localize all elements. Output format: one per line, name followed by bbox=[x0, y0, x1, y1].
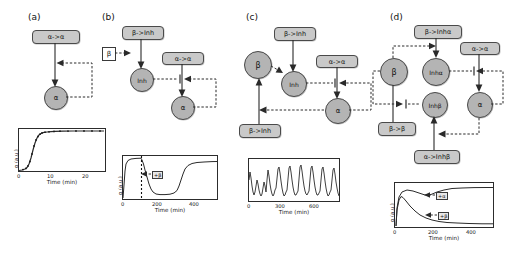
chart-c-xlabel: Time (min) bbox=[262, 209, 326, 215]
chart-c-frame bbox=[248, 158, 340, 202]
chart-b-frame bbox=[122, 155, 218, 200]
chart-a-frame bbox=[18, 128, 106, 172]
node-alpha-circle-c: α bbox=[325, 98, 351, 124]
chart-a-xtick-0: 0 bbox=[17, 173, 20, 179]
node-inh-circle-b: Inh bbox=[130, 68, 154, 92]
panel-c-label: (c) bbox=[246, 12, 258, 22]
node-beta-circle-c: β bbox=[244, 51, 272, 79]
chart-a-ylabel: α (a.u.) bbox=[13, 149, 19, 168]
node-beta-inh-box-b: β->Inh bbox=[122, 26, 164, 40]
chart-b-xtick-0: 0 bbox=[121, 201, 124, 207]
panel-d-label: (d) bbox=[390, 12, 403, 22]
chart-d-frame bbox=[394, 182, 494, 228]
node-beta-circle-d: β bbox=[380, 58, 408, 86]
chart-d-xlabel: Time (min) bbox=[412, 235, 476, 241]
chart-d-annotation-alpha: +α bbox=[436, 192, 448, 200]
chart-a-xlabel: Time (min) bbox=[30, 179, 94, 185]
node-beta-input-square-b: β bbox=[102, 47, 116, 61]
chart-b-xlabel: Time (min) bbox=[138, 207, 202, 213]
node-beta-inh-alpha-box-d: β->Inhα bbox=[414, 25, 462, 39]
node-alpha-circle-a: α bbox=[44, 86, 68, 110]
node-beta-inh-alpha-label: β->Inhα bbox=[425, 28, 451, 36]
edges-panel-b bbox=[100, 0, 235, 130]
chart-d-xtick-0: 0 bbox=[393, 229, 396, 235]
panel-b: (b) β->Inh β Inh α->α α +β α (a.u.) 0 20… bbox=[100, 0, 235, 269]
node-alpha-production-box-c: α->α bbox=[316, 55, 358, 68]
node-beta-beta-box-d: β->β bbox=[378, 122, 416, 136]
node-alpha-production-box-d: α->α bbox=[460, 42, 500, 55]
chart-d-ylabel: α (a.u.) bbox=[389, 203, 395, 222]
node-inh-circle-c: Inh bbox=[281, 71, 307, 97]
chart-c-xtick-0: 0 bbox=[247, 203, 250, 209]
chart-d-annotation-beta: +β bbox=[438, 212, 449, 220]
node-beta-inh-box-top-c: β->Inh bbox=[274, 27, 316, 41]
node-inh-beta-circle-d: Inhβ bbox=[422, 92, 448, 118]
node-inh-alpha-circle-d: Inhα bbox=[422, 58, 450, 86]
node-alpha-circle-d: α bbox=[467, 92, 493, 118]
panel-c: (c) β->Inh β Inh α->α α β->Inh 0 300 600… bbox=[238, 0, 378, 269]
node-alpha-circle-b: α bbox=[171, 96, 195, 120]
panel-a-label: (a) bbox=[28, 12, 41, 22]
panel-d: (d) β->Inhα β Inhα α->α α Inhβ β->β α->I… bbox=[372, 0, 509, 269]
node-beta-inh-box-bottom-c: β->Inh bbox=[239, 124, 281, 138]
chart-b-annotation-beta: +β bbox=[152, 171, 163, 179]
node-alpha-inh-beta-box-d: α->Inhβ bbox=[414, 150, 460, 164]
node-alpha-production-box-b: α->α bbox=[162, 52, 204, 65]
node-alpha-production-box-a: α->α bbox=[32, 30, 80, 44]
panel-b-label: (b) bbox=[102, 12, 115, 22]
chart-b-ylabel: α (a.u.) bbox=[117, 176, 123, 195]
